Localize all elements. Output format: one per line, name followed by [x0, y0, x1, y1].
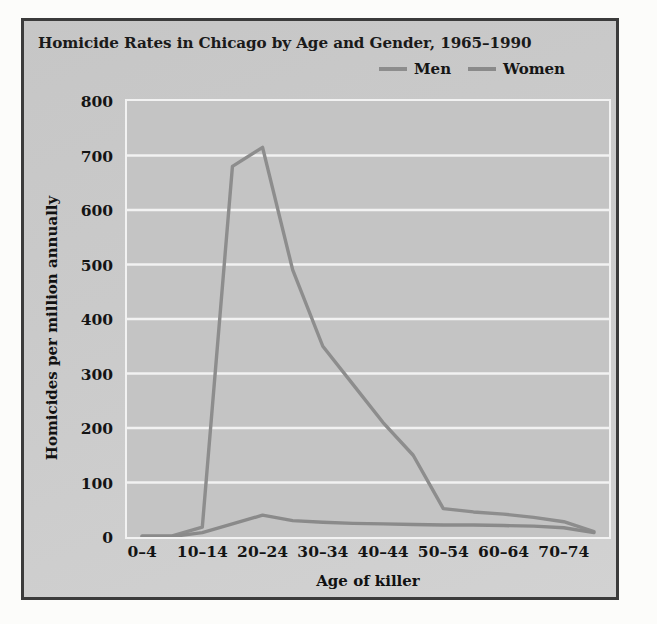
series-line-men — [142, 147, 594, 536]
legend-entry-women[interactable]: Women — [468, 60, 565, 78]
y-tick-label: 500 — [81, 255, 113, 274]
x-tick-label: 60–64 — [478, 542, 529, 561]
plot-svg — [127, 101, 609, 537]
chart-legend: Men Women — [379, 60, 565, 78]
legend-swatch-men-icon — [379, 67, 407, 71]
x-axis-title: Age of killer — [125, 572, 611, 590]
y-tick-label: 100 — [81, 473, 113, 492]
legend-label-women: Women — [503, 60, 565, 78]
x-tick-label: 10–14 — [177, 542, 228, 561]
figure-background: Homicide Rates in Chicago by Age and Gen… — [24, 21, 616, 597]
series-line-women — [142, 515, 594, 536]
y-tick-label: 800 — [81, 92, 113, 111]
legend-swatch-women-icon — [468, 67, 496, 71]
x-tick-label: 0–4 — [127, 542, 156, 561]
y-tick-label: 0 — [102, 528, 113, 547]
y-tick-label: 200 — [81, 419, 113, 438]
y-axis-title: Homicides per million annually — [43, 163, 61, 493]
x-tick-label: 40–44 — [358, 542, 409, 561]
x-tick-label: 50–54 — [418, 542, 469, 561]
figure-root: Homicide Rates in Chicago by Age and Gen… — [0, 0, 657, 624]
y-tick-label: 300 — [81, 364, 113, 383]
y-tick-label: 400 — [81, 310, 113, 329]
legend-entry-men[interactable]: Men — [379, 60, 451, 78]
x-tick-label: 70–74 — [538, 542, 589, 561]
y-tick-label: 600 — [81, 201, 113, 220]
chart-title: Homicide Rates in Chicago by Age and Gen… — [38, 34, 531, 52]
plot-area — [125, 99, 611, 539]
legend-label-men: Men — [414, 60, 451, 78]
x-axis-tick-labels: 0–410–1420–2430–3440–4450–5460–6470–74 — [125, 542, 611, 566]
x-tick-label: 20–24 — [237, 542, 288, 561]
x-tick-label: 30–34 — [297, 542, 348, 561]
figure-border-frame: Homicide Rates in Chicago by Age and Gen… — [21, 18, 619, 600]
y-tick-label: 700 — [81, 146, 113, 165]
